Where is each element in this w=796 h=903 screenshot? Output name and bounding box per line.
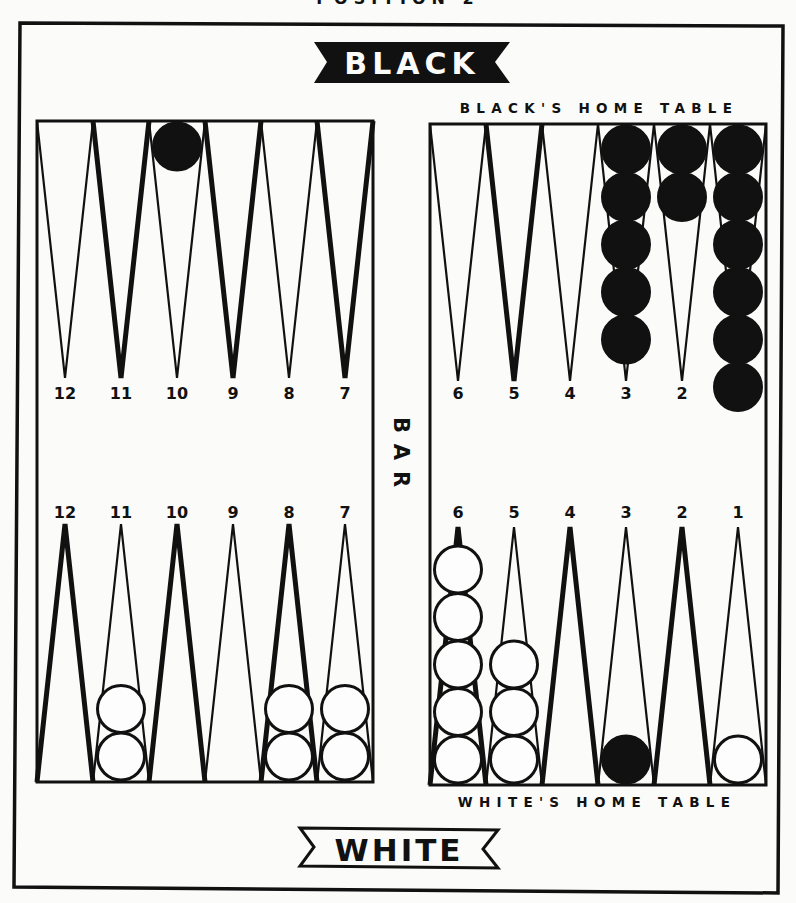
white-checker[interactable] [266,733,313,780]
point-label-1: 1 [732,503,743,522]
white-checker[interactable] [715,736,762,783]
point-label-2: 2 [676,384,687,403]
bar-letter: R [389,471,413,487]
point-label-3: 3 [620,384,631,403]
black-checker[interactable] [715,221,762,268]
point-label-2: 2 [676,503,687,522]
black-checker[interactable] [659,174,706,221]
black-checker[interactable] [603,174,650,221]
point-label-3: 3 [620,503,631,522]
black-checker[interactable] [603,269,650,316]
quadrant-bottom-left: 121110987 [37,503,373,782]
point-label-8: 8 [283,384,294,403]
point-label-8: 8 [283,503,294,522]
whites-home-table-label: WHITE'S HOME TABLE [458,794,736,810]
point-12-bottom-triangle[interactable] [37,524,93,782]
black-checker[interactable] [715,126,762,173]
point-label-4: 4 [564,503,575,522]
point-label-11: 11 [110,503,132,522]
white-banner-label: WHITE [335,832,464,868]
white-checker[interactable] [435,594,482,641]
white-checker[interactable] [266,686,313,733]
point-5-top-triangle[interactable] [486,124,542,381]
white-checker[interactable] [322,686,369,733]
point-7-top-triangle[interactable] [317,121,373,378]
quadrant-top-left: 121110987 [37,121,373,403]
black-checker[interactable] [154,123,201,170]
point-8-top-triangle[interactable] [261,121,317,378]
white-checker[interactable] [435,689,482,736]
right-board-frame [430,124,766,785]
black-checker[interactable] [715,316,762,363]
point-label-11: 11 [110,384,132,403]
point-4-top-triangle[interactable] [542,124,598,381]
point-4-bottom-triangle[interactable] [542,527,598,785]
bar-letter: A [389,444,413,461]
white-checker[interactable] [491,689,538,736]
point-11-top-triangle[interactable] [93,121,149,378]
point-label-12: 12 [54,384,76,403]
point-label-12: 12 [54,503,76,522]
black-checker[interactable] [603,126,650,173]
point-10-bottom-triangle[interactable] [149,524,205,782]
white-banner: WHITE [300,828,498,868]
point-label-6: 6 [452,384,463,403]
quadrant-top-right: 65432 [430,124,766,411]
point-label-10: 10 [166,384,188,403]
black-checker[interactable] [603,221,650,268]
black-checker[interactable] [715,174,762,221]
bar-letter: B [389,417,413,433]
white-checker[interactable] [435,736,482,783]
point-label-10: 10 [166,503,188,522]
point-label-7: 7 [339,384,350,403]
white-checker[interactable] [491,641,538,688]
backgammon-diagram: POSITION 2 BLACK BLACK'S HOME TABLE 1211… [0,0,796,903]
white-checker[interactable] [435,641,482,688]
quadrant-bottom-right: 654321 [430,503,766,785]
point-label-5: 5 [508,384,519,403]
black-checker[interactable] [715,269,762,316]
point-6-top-triangle[interactable] [430,124,486,381]
white-checker[interactable] [322,733,369,780]
white-checker[interactable] [98,733,145,780]
white-checker[interactable] [491,736,538,783]
black-banner: BLACK [314,42,510,83]
point-label-5: 5 [508,503,519,522]
black-checker[interactable] [603,736,650,783]
point-label-9: 9 [227,503,238,522]
point-9-top-triangle[interactable] [205,121,261,378]
point-label-9: 9 [227,384,238,403]
point-12-top-triangle[interactable] [37,121,93,378]
point-label-7: 7 [339,503,350,522]
left-board-frame [37,121,373,782]
white-checker[interactable] [98,686,145,733]
point-9-bottom-triangle[interactable] [205,524,261,782]
bar-label: BAR [389,417,413,487]
white-checker[interactable] [435,546,482,593]
point-label-6: 6 [452,503,463,522]
blacks-home-table-label: BLACK'S HOME TABLE [460,100,739,116]
black-banner-label: BLACK [344,46,479,81]
point-2-bottom-triangle[interactable] [654,527,710,785]
black-checker[interactable] [659,126,706,173]
position-title: POSITION 2 [316,0,479,8]
point-label-4: 4 [564,384,575,403]
black-checker[interactable] [715,364,762,411]
black-checker[interactable] [603,316,650,363]
backgammon-board-svg: POSITION 2 BLACK BLACK'S HOME TABLE 1211… [0,0,796,903]
